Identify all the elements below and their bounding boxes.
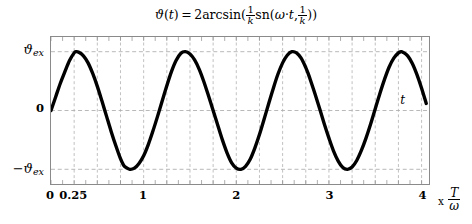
x-axis-tick-label: 3 [299,190,359,202]
x-unit-denominator: ω [448,199,460,212]
title-closing-parens: )) [307,7,317,22]
title-theta-symbol: ϑ [155,7,164,22]
y-axis-label-zero: 0 [0,103,44,115]
curve-layer [51,37,429,184]
y-axis-label-theta-ex: ϑex [0,43,44,58]
pendulum-oscillation-figure: ϑ(t) = 2arcsin(1ksn(ω·t,1k)) ϑex 0 −ϑex … [0,0,472,224]
x-axis-tick-label: 2 [206,190,266,202]
title-omega-symbol: ω [275,7,285,22]
title-second-fraction: 1k [298,5,306,26]
title-sn-function: sn( [255,7,274,22]
title-equals-sign: = [181,7,191,22]
y-axis-label-negative-theta-ex: −ϑex [0,162,44,177]
title-arcsin-function: arcsin( [202,7,246,22]
curve-variable-label-t: t [400,94,405,106]
plot-area [50,36,430,185]
x-unit-fraction: Tω [448,187,460,212]
title-first-fraction-numerator: 1 [246,5,254,15]
title-close-paren: ) [174,7,179,22]
title-comma: , [294,7,298,22]
chart-title-formula: ϑ(t) = 2arcsin(1ksn(ω·t,1k)) [0,5,472,26]
title-first-fraction-denominator: k [246,15,254,26]
title-second-fraction-numerator: 1 [298,5,306,15]
oscillation-curve [51,52,426,170]
x-unit-prefix: x [438,195,444,207]
x-axis-tick-label: 1 [113,190,173,202]
title-coefficient-two: 2 [194,7,202,22]
title-first-fraction: 1k [246,5,254,26]
x-axis-tick-label: 0.25 [43,190,103,202]
x-unit-numerator: T [448,187,460,199]
x-axis-unit-label: x Tω [438,187,461,212]
title-second-fraction-denominator: k [298,15,306,26]
